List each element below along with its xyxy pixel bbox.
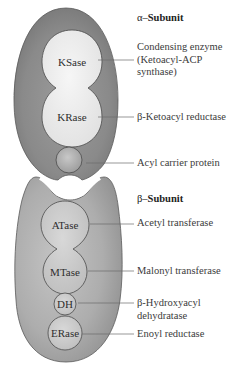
label-acyl-carrier-protein: Acyl carrier protein: [137, 157, 220, 170]
label-malonyl-transferase: Malonyl transferase: [137, 265, 221, 278]
label-line: Condensing enzyme: [137, 41, 222, 54]
atase-label: ATase: [52, 219, 79, 231]
label-line: dehydratase: [137, 310, 201, 323]
dh-label: DH: [57, 298, 73, 310]
beta-subunit-header: β–Subunit: [137, 193, 183, 206]
mtase-label: MTase: [50, 266, 80, 278]
label-condensing-enzyme: Condensing enzyme (Ketoacyl-ACP synthase…: [137, 41, 222, 79]
alpha-subunit: KSase KRase: [14, 8, 118, 180]
ksase-label: KSase: [58, 56, 86, 68]
beta-header-text: Subunit: [148, 193, 184, 204]
acp-domain: [56, 147, 82, 173]
label-line: β-Hydroxyacyl: [137, 297, 201, 310]
krase-label: KRase: [57, 111, 86, 123]
label-hydroxyacyl-dehydratase: β-Hydroxyacyl dehydratase: [137, 297, 201, 322]
label-line: synthase): [137, 66, 222, 79]
alpha-header-text: Subunit: [148, 12, 184, 23]
label-line: (Ketoacyl-ACP: [137, 54, 222, 67]
label-acetyl-transferase: Acetyl transferase: [137, 217, 213, 230]
erase-label: ERase: [51, 327, 79, 339]
alpha-subunit-header: α–Subunit: [137, 12, 183, 25]
alpha-symbol: α–: [137, 12, 148, 23]
label-enoyl-reductase: Enoyl reductase: [137, 328, 204, 341]
beta-symbol: β–: [137, 193, 148, 204]
label-ketoacyl-reductase: β-Ketoacyl reductase: [137, 111, 226, 124]
